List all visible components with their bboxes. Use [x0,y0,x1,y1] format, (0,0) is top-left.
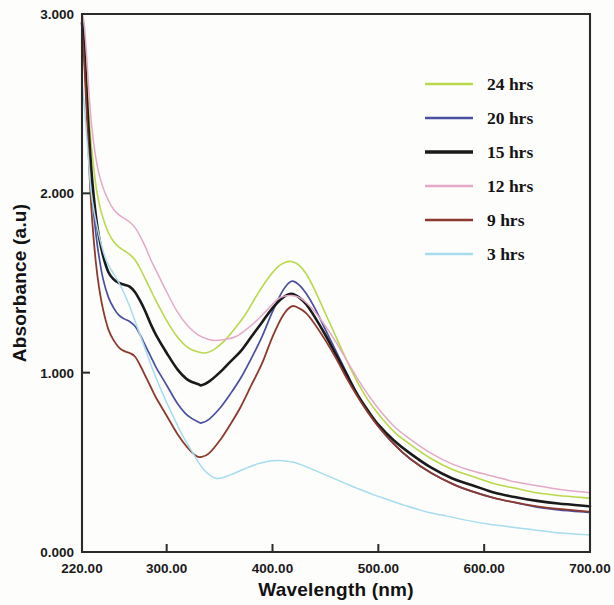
y-tick-label: 3.000 [40,7,74,22]
y-tick-label: 2.000 [40,186,74,201]
axes-layer [82,14,590,552]
legend-item-12-hrs-label: 12 hrs [487,176,533,196]
x-tick-label: 220.00 [61,561,102,576]
x-axis-title: Wavelength (nm) [258,579,413,600]
legend-item-15-hrs-label: 15 hrs [487,142,533,162]
y-axis-title: Absorbance (a.u) [9,204,30,362]
legend-item-20-hrs-label: 20 hrs [487,108,533,128]
x-tick-label: 700.00 [569,561,610,576]
x-tick-label: 500.00 [358,561,399,576]
uv-vis-spectrum-figure: 220.00300.00400.00500.00600.00700.000.00… [0,0,614,605]
plot-frame [82,14,590,552]
y-tick-label: 1.000 [40,366,74,381]
legend-item-3-hrs-label: 3 hrs [487,244,525,264]
plot-canvas: 220.00300.00400.00500.00600.00700.000.00… [0,0,614,605]
legend-layer: 24 hrs20 hrs15 hrs12 hrs9 hrs3 hrs [425,74,533,264]
series-curve-9-hrs [82,32,590,512]
x-tick-label: 400.00 [252,561,293,576]
x-tick-label: 600.00 [464,561,505,576]
y-tick-label: 0.000 [40,545,74,560]
legend-item-24-hrs-label: 24 hrs [487,74,533,94]
legend-item-9-hrs-label: 9 hrs [487,210,525,230]
series-curve-15-hrs [82,23,590,506]
x-tick-label: 300.00 [146,561,187,576]
